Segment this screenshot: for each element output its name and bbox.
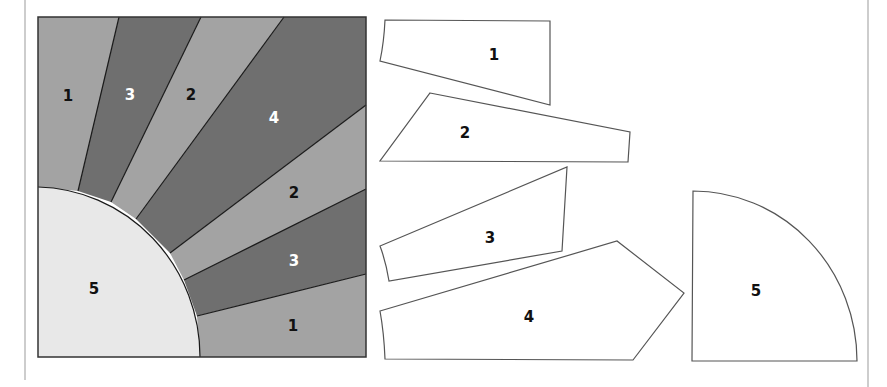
template-label-1: 1	[489, 46, 499, 64]
template-piece-1	[380, 20, 550, 105]
template-label-4: 4	[524, 308, 534, 326]
template-pieces: 1 2 3 4 5	[380, 20, 857, 361]
block-label-center-5: 5	[89, 280, 99, 298]
quilt-diagram: 1 3 2 4 2 3 1 5 1 2 3 4 5	[0, 0, 887, 387]
template-piece-2	[380, 93, 630, 162]
block-label-ray-1-bottom: 1	[288, 317, 298, 335]
block-label-ray-4: 4	[269, 109, 279, 127]
template-label-5: 5	[751, 282, 761, 300]
block-label-ray-3-right: 3	[289, 252, 299, 270]
template-label-2: 2	[460, 124, 470, 142]
quilt-block: 1 3 2 4 2 3 1 5	[38, 17, 366, 357]
block-label-ray-2-right: 2	[289, 184, 299, 202]
block-label-ray-3-top: 3	[125, 86, 135, 104]
template-piece-5	[692, 191, 857, 361]
block-label-ray-2-top: 2	[186, 86, 196, 104]
template-label-3: 3	[485, 229, 495, 247]
block-label-ray-1-top: 1	[63, 87, 73, 105]
